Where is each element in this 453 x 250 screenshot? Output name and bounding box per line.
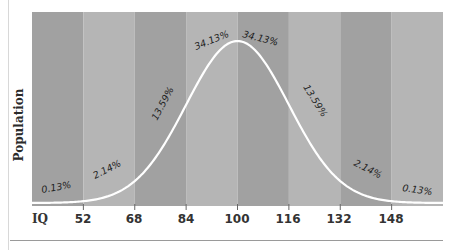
band-7 xyxy=(340,12,391,206)
tick-label-52: 52 xyxy=(75,212,92,226)
x-tick-labels: 52 68 84 100 116 132 148 xyxy=(75,212,404,226)
tick-label-132: 132 xyxy=(326,212,351,226)
tick-label-68: 68 xyxy=(126,212,143,226)
x-axis-label: IQ xyxy=(32,212,48,226)
band-8 xyxy=(392,12,443,206)
band-2 xyxy=(83,12,134,206)
tick-label-100: 100 xyxy=(224,212,249,226)
bell-curve-chart: IQ 52 68 84 100 116 132 148 0.13% 2.14% … xyxy=(0,0,453,250)
bottom-divider xyxy=(10,240,443,241)
band-1 xyxy=(32,12,83,206)
tick-label-116: 116 xyxy=(275,212,300,226)
tick-label-84: 84 xyxy=(178,212,195,226)
tick-label-148: 148 xyxy=(378,212,403,226)
